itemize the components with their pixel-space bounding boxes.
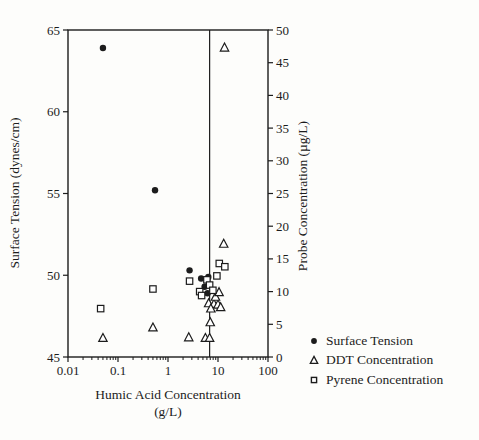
right-y-axis-tick-label: 30 — [276, 153, 289, 168]
legend-label: DDT Concentration — [326, 352, 433, 368]
data-point-surface-tension — [186, 267, 192, 273]
data-point-ddt — [219, 239, 227, 247]
data-point-ddt — [185, 333, 193, 341]
left-y-axis-tick-label: 55 — [47, 186, 60, 201]
data-point-ddt — [149, 323, 157, 331]
right-y-axis-tick-label: 25 — [276, 186, 289, 201]
x-axis-title-line2: (g/L) — [95, 403, 240, 420]
data-point-ddt — [206, 318, 214, 326]
legend-label: Pyrene Concentration — [326, 372, 443, 388]
x-axis-tick-label: 1 — [165, 363, 172, 378]
scatter-plot-figure: 0.010.1110100455055606505101520253035404… — [0, 0, 479, 440]
left-y-axis-tick-label: 60 — [47, 104, 60, 119]
data-point-pyrene — [210, 287, 216, 293]
data-point-pyrene — [186, 278, 192, 284]
data-point-pyrene — [150, 286, 156, 292]
right-y-axis-tick-label: 5 — [276, 317, 283, 332]
left-axis-title: Surface Tension (dynes/cm) — [7, 117, 23, 268]
legend-item-ddt-concentration: DDT Concentration — [308, 353, 443, 368]
legend-item-surface-tension: Surface Tension — [308, 333, 443, 348]
data-point-surface-tension — [152, 187, 158, 193]
right-y-axis-tick-label: 40 — [276, 88, 289, 103]
left-y-axis-tick-label: 50 — [47, 268, 60, 283]
right-y-axis-tick-label: 50 — [276, 23, 289, 38]
x-axis-title: Humic Acid Concentration (g/L) — [95, 386, 240, 420]
data-point-ddt — [99, 333, 107, 341]
filled-circle-icon — [308, 335, 320, 347]
open-triangle-icon — [308, 354, 320, 366]
right-y-axis-tick-label: 0 — [276, 350, 283, 365]
x-axis-tick-label: 0.01 — [57, 363, 80, 378]
right-y-axis-tick-label: 10 — [276, 284, 289, 299]
x-axis-title-line1: Humic Acid Concentration — [95, 386, 240, 403]
right-y-axis-tick-label: 15 — [276, 251, 289, 266]
x-axis-tick-label: 100 — [258, 363, 278, 378]
left-y-axis-tick-label: 45 — [47, 350, 60, 365]
legend-label: Surface Tension — [326, 333, 413, 349]
x-axis-tick-label: 0.1 — [110, 363, 126, 378]
data-point-surface-tension — [100, 45, 106, 51]
data-point-pyrene — [222, 264, 228, 270]
right-y-axis-tick-label: 35 — [276, 121, 289, 136]
data-point-ddt — [220, 43, 228, 51]
right-y-axis-tick-label: 20 — [276, 219, 289, 234]
data-point-pyrene — [214, 273, 220, 279]
right-y-axis-tick-label: 45 — [276, 55, 289, 70]
legend: Surface Tension DDT Concentration Pyrene… — [308, 333, 443, 387]
open-square-icon — [308, 374, 320, 386]
left-y-axis-tick-label: 65 — [47, 23, 60, 38]
data-point-pyrene — [198, 292, 204, 298]
data-point-pyrene — [97, 305, 103, 311]
x-axis-tick-label: 10 — [212, 363, 225, 378]
legend-item-pyrene-concentration: Pyrene Concentration — [308, 372, 443, 387]
right-axis-title: Probe Concentration (µg/L) — [295, 121, 311, 271]
